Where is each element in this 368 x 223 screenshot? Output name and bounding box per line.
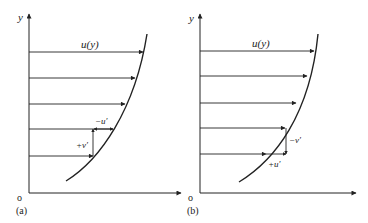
profile-label: u(y) <box>252 37 270 50</box>
panel-caption: (a) <box>16 205 27 217</box>
v-fluctuation-label: −v′ <box>289 135 302 145</box>
y-axis-label: y <box>17 11 23 23</box>
origin-label: o <box>17 192 22 203</box>
v-fluctuation-label: +v′ <box>76 140 89 150</box>
profile-label: u(y) <box>81 38 99 51</box>
panel-b: y o (b) u(y) −v′ +u′ <box>187 12 356 217</box>
velocity-fluctuation-diagram: y o (a) u(y) −u′ +v′ y o (b) u(y) −v′ +u… <box>0 0 368 223</box>
origin-label: o <box>188 192 193 203</box>
panel-caption: (b) <box>187 205 199 217</box>
u-fluctuation-label: −u′ <box>95 116 109 126</box>
y-axis-label: y <box>188 12 194 24</box>
panel-a: y o (a) u(y) −u′ +v′ <box>16 11 181 217</box>
velocity-profile-curve <box>66 34 147 181</box>
u-fluctuation-label: +u′ <box>268 159 282 169</box>
